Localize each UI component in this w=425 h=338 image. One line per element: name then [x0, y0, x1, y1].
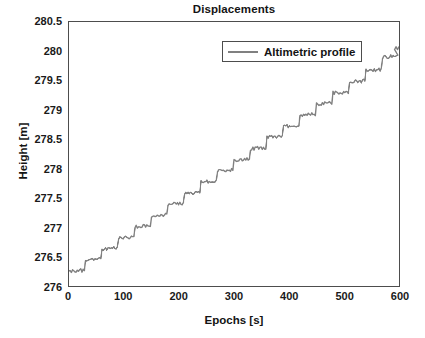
x-tick-label: 400 — [265, 290, 313, 302]
y-tick-label: 280.5 — [16, 15, 62, 27]
y-tick-label: 277 — [16, 222, 62, 234]
x-tick-label: 200 — [155, 290, 203, 302]
legend-item-label: Altimetric profile — [264, 46, 355, 58]
y-axis-label: Height [m] — [17, 81, 29, 221]
figure: Displacements 280.5 280 279.5 279 278.5 … — [0, 0, 425, 338]
x-tick-label: 300 — [210, 290, 258, 302]
y-tick-label: 280 — [16, 45, 62, 57]
x-tick-label: 600 — [376, 290, 424, 302]
page-title: Displacements — [68, 3, 400, 15]
legend-line-swatch — [228, 51, 258, 53]
legend: Altimetric profile — [222, 41, 362, 62]
x-tick-label: 500 — [321, 290, 369, 302]
y-tick-label: 276.5 — [16, 251, 62, 263]
x-axis-label: Epochs [s] — [68, 314, 400, 326]
x-tick-label: 0 — [44, 290, 92, 302]
x-tick-label: 100 — [99, 290, 147, 302]
